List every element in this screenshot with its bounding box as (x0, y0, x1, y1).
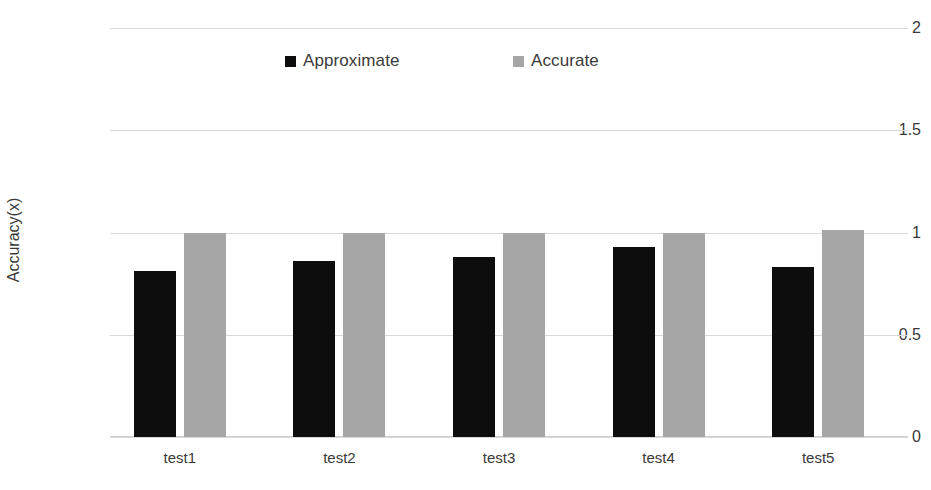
bar-group (270, 28, 430, 437)
plot-area (110, 28, 908, 437)
bar (453, 257, 495, 437)
bar (343, 233, 385, 438)
bar (134, 271, 176, 437)
bar (822, 230, 864, 437)
gridline (110, 437, 908, 438)
bar (663, 233, 705, 438)
x-axis-tick-label: test1 (164, 449, 197, 466)
bar-group (429, 28, 589, 437)
bar (503, 233, 545, 438)
bar (772, 267, 814, 437)
bar (184, 233, 226, 438)
bar-group (110, 28, 270, 437)
y-axis-title: Accuracy(x) (5, 198, 23, 282)
bar-chart: Approximate Accurate Accuracy(x) 00.511.… (0, 0, 931, 490)
x-axis-tick-label: test2 (323, 449, 356, 466)
x-axis-tick-label: test5 (802, 449, 835, 466)
bar (613, 247, 655, 437)
bar (293, 261, 335, 437)
x-axis-tick-label: test3 (483, 449, 516, 466)
x-axis-tick-label: test4 (642, 449, 675, 466)
bar-group (589, 28, 749, 437)
bar-group (748, 28, 908, 437)
